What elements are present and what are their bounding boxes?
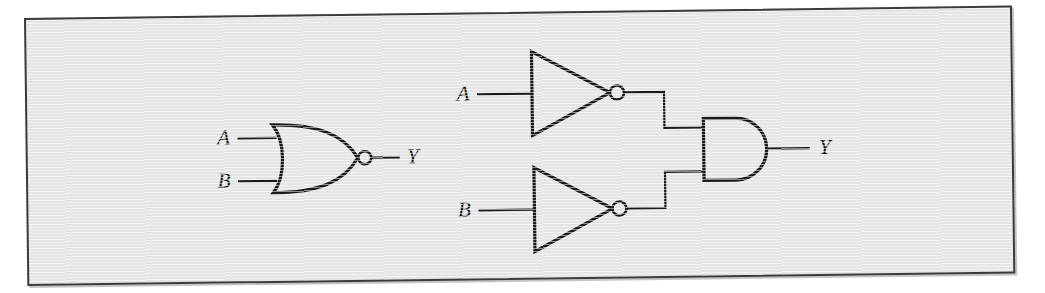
nor-gate-circuit: A B Y [215, 123, 421, 194]
nor-inversion-bubble [358, 151, 371, 164]
inverter-top-input-a-label: A [454, 81, 469, 105]
nor-gate-body [272, 124, 358, 193]
nor-output-y-label: Y [407, 144, 421, 168]
and-output-wire [767, 148, 810, 149]
inverter-top-body [531, 51, 610, 136]
nor-input-a-label: A [215, 125, 230, 149]
figure-page: A B Y A [0, 0, 1045, 293]
logic-circuit-diagram: A B Y A [26, 8, 1015, 286]
inverter-bottom-inversion-bubble [612, 201, 626, 215]
and-gate-body [703, 118, 767, 181]
nor-input-b-label: B [217, 168, 230, 192]
circuit-figure-panel: A B Y A [24, 6, 1015, 286]
inverters-and-circuit: A B Y [454, 48, 834, 253]
inverter-bottom-input-b-label: B [458, 197, 471, 221]
inverter-top-input-wire [477, 94, 532, 95]
and-output-y-label: Y [819, 135, 833, 159]
inverter-bottom-output-wire [626, 171, 704, 208]
inverter-top-output-wire [624, 91, 703, 128]
inverter-top-inversion-bubble [610, 85, 624, 99]
inverter-bottom-input-wire [478, 210, 534, 211]
inverter-bottom-body [534, 167, 613, 252]
